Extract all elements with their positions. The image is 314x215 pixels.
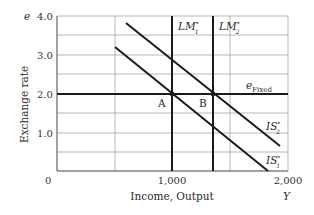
y-tick-3: 3.0 bbox=[37, 50, 53, 61]
origin-label: 0 bbox=[45, 175, 51, 186]
y-axis-label: Exchange rate bbox=[18, 66, 30, 143]
lm1-label: LM*1 bbox=[177, 20, 199, 35]
x-axis-label: Income, Output bbox=[130, 190, 214, 202]
is1-label: IS*1 bbox=[265, 154, 280, 169]
x-tick-1000: 1,000 bbox=[158, 175, 187, 186]
point-b-label: B bbox=[199, 97, 207, 109]
lm2-label: LM*2 bbox=[218, 20, 240, 35]
e-fixed-label: eFixed bbox=[246, 79, 272, 94]
exchange-rate-chart: A B LM*1 LM*2 eFixed IS*2 IS*1 e 4.0 3.0… bbox=[0, 0, 314, 215]
point-a-label: A bbox=[157, 97, 166, 109]
point-a-marker bbox=[170, 92, 175, 97]
is1-curve bbox=[115, 47, 268, 171]
x-tick-2000: 2,000 bbox=[274, 175, 303, 186]
x-symbol: Y bbox=[283, 190, 291, 202]
y-tick-1: 1.0 bbox=[37, 128, 53, 139]
point-b-marker bbox=[211, 92, 216, 97]
y-symbol: e bbox=[24, 10, 30, 22]
is2-curve bbox=[126, 23, 280, 146]
y-tick-2: 2.0 bbox=[37, 89, 53, 100]
y-tick-4: 4.0 bbox=[37, 11, 53, 22]
